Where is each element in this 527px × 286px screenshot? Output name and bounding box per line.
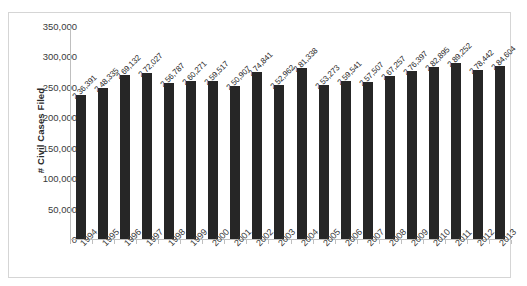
- bar: [363, 82, 373, 239]
- plot-area: 2,36,3912,48,3352,69,1322,72,0272,56,787…: [70, 26, 511, 239]
- bar: [297, 68, 307, 239]
- bar: [407, 71, 417, 239]
- bar: [120, 75, 130, 239]
- bar: [451, 63, 461, 239]
- bar: [319, 85, 329, 239]
- bar: [274, 85, 284, 239]
- bar: [252, 72, 262, 239]
- bar: [385, 76, 395, 239]
- y-axis-line: [70, 26, 71, 240]
- bar: [164, 83, 174, 239]
- bar: [230, 86, 240, 239]
- bar: [429, 67, 439, 239]
- chart-frame: # Civil Cases Filed 350,000300,000250,00…: [8, 12, 511, 278]
- bar: [186, 81, 196, 239]
- bar: [208, 81, 218, 239]
- x-axis-category-labels: 1994199519961997199819992000200120022003…: [70, 241, 511, 281]
- bar: [341, 81, 351, 239]
- bar: [98, 88, 108, 239]
- bar: [76, 95, 86, 239]
- civil-cases-filed-bar-chart: # Civil Cases Filed 350,000300,000250,00…: [0, 0, 527, 286]
- bar: [495, 66, 505, 239]
- bar: [142, 73, 152, 239]
- bar: [473, 70, 483, 239]
